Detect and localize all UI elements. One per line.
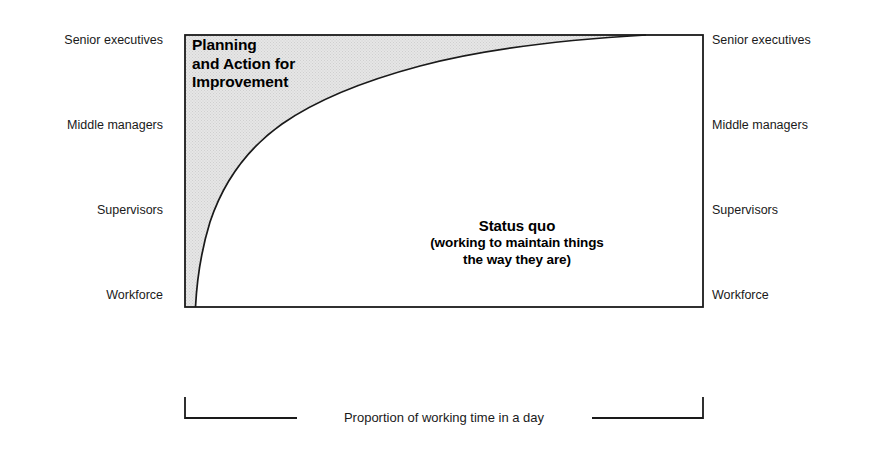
status-quo-region-label: Status quo (working to maintain things t… xyxy=(392,216,642,268)
x-axis-caption: Proportion of working time in a day xyxy=(299,409,589,426)
planning-region-line-2: and Action for xyxy=(192,55,337,74)
status-quo-sub-line-2: the way they are) xyxy=(392,252,642,269)
planning-region-line-3: Improvement xyxy=(192,73,337,92)
status-quo-title: Status quo xyxy=(392,216,642,235)
planning-region-line-1: Planning xyxy=(192,36,337,55)
status-quo-sub-line-1: (working to maintain things xyxy=(392,235,642,252)
planning-region-label: Planning and Action for Improvement xyxy=(192,36,337,92)
figure-canvas: Senior executives Middle managers Superv… xyxy=(0,0,871,456)
